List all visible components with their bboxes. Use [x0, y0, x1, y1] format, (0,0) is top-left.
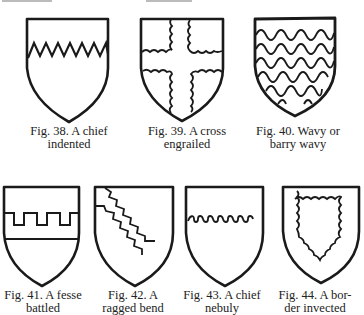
- figure-41: Fig. 41. A fesse battled: [0, 155, 91, 311]
- figure-43: Fig. 43. A chief nebuly: [182, 155, 273, 311]
- caption-line-2: indented: [4, 138, 134, 151]
- caption-line-2: der invected: [267, 302, 363, 315]
- figure-caption: Fig. 41. A fesse battled: [0, 289, 88, 315]
- figure-caption: Fig. 39. A cross engrailed: [124, 125, 250, 151]
- caption-line-2: barry wavy: [240, 138, 356, 151]
- caption-line-2: battled: [0, 302, 88, 315]
- caption-line-2: nebuly: [174, 302, 270, 315]
- figure-38: Fig. 38. A chief indented: [0, 0, 130, 150]
- caption-line-2: engrailed: [124, 138, 250, 151]
- figure-caption: Fig. 44. A bor- der invected: [267, 289, 363, 315]
- figure-39: Fig. 39. A cross engrailed: [130, 0, 248, 150]
- figure-caption: Fig. 40. Wavy or barry wavy: [240, 125, 356, 151]
- figure-caption: Fig. 43. A chief nebuly: [174, 289, 270, 315]
- figure-42: Fig. 42. A ragged bend: [91, 155, 182, 311]
- caption-line-2: ragged bend: [87, 302, 179, 315]
- figure-caption: Fig. 38. A chief indented: [4, 125, 134, 151]
- figure-40: Fig. 40. Wavy or barry wavy: [248, 0, 364, 150]
- figure-caption: Fig. 42. A ragged bend: [87, 289, 179, 315]
- figure-44: Fig. 44. A bor- der invected: [273, 155, 364, 311]
